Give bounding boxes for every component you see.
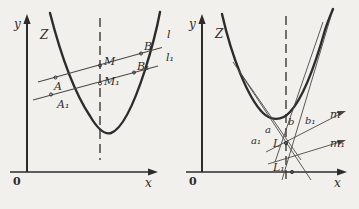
right-polar-label-m: m bbox=[330, 108, 340, 121]
right-tangent-label-a1: a₁ bbox=[251, 135, 261, 146]
right-tangent-label-b: b bbox=[288, 116, 294, 127]
figure-canvas: y x 0 Z l l₁ A B M A₁ B₁ M₁ bbox=[0, 0, 359, 209]
textbook-figure: y x 0 Z l l₁ A B M A₁ B₁ M₁ bbox=[0, 0, 359, 209]
left-point-label-a: A bbox=[53, 80, 62, 93]
left-point-label-m1: M₁ bbox=[103, 75, 120, 88]
left-y-axis-label: y bbox=[13, 17, 21, 31]
right-curve-label-z: Z bbox=[214, 27, 224, 41]
left-curve-label-z: Z bbox=[39, 28, 49, 42]
left-point-label-b1: B₁ bbox=[136, 60, 150, 73]
right-origin-label: 0 bbox=[189, 175, 197, 188]
right-point-label-l: L bbox=[272, 137, 280, 150]
left-x-axis-label: x bbox=[145, 176, 152, 190]
left-point-label-a1: A₁ bbox=[56, 98, 69, 111]
right-y-axis-label: y bbox=[188, 17, 196, 31]
right-tangent-label-b1: b₁ bbox=[305, 115, 315, 126]
right-polar-label-m1: m₁ bbox=[330, 137, 345, 150]
right-x-axis-label: x bbox=[334, 176, 341, 190]
left-origin-label: 0 bbox=[13, 175, 21, 188]
left-line-label-l1: l₁ bbox=[166, 51, 174, 64]
left-line-label-l: l bbox=[167, 28, 171, 41]
left-point-label-m: M bbox=[103, 55, 116, 68]
right-point-label-l1: L₁ bbox=[272, 161, 285, 174]
right-tangent-label-a: a bbox=[265, 124, 271, 135]
left-point-label-b: B bbox=[143, 40, 152, 53]
